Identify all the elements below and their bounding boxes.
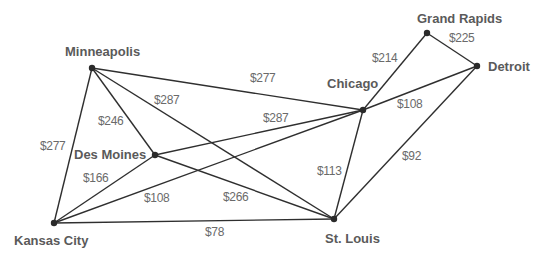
city-label-grand-rapids: Grand Rapids xyxy=(417,11,502,26)
city-node-chicago xyxy=(360,107,366,113)
city-node-detroit xyxy=(474,63,480,69)
cost-label: $113 xyxy=(317,164,342,178)
route-cost-graph: MinneapolisDes MoinesKansas CitySt. Loui… xyxy=(0,0,544,261)
city-node-st-louis xyxy=(331,216,337,222)
cost-label: $108 xyxy=(144,191,170,205)
city-label-detroit: Detroit xyxy=(488,59,531,74)
cost-label: $287 xyxy=(263,111,289,125)
edge-minneapolis-des-moines xyxy=(92,68,155,155)
cost-label: $214 xyxy=(372,51,398,65)
city-node-des-moines xyxy=(152,152,158,158)
cost-label: $277 xyxy=(40,139,66,153)
edge-minneapolis-chicago xyxy=(92,68,363,110)
edges-layer xyxy=(54,33,477,223)
cost-label: $287 xyxy=(154,93,180,107)
edge-des-moines-kansas-city xyxy=(54,155,155,223)
cost-label: $166 xyxy=(83,171,109,185)
city-node-minneapolis xyxy=(89,65,95,71)
edge-des-moines-st-louis xyxy=(155,155,334,219)
cost-label: $277 xyxy=(250,71,276,85)
city-label-chicago: Chicago xyxy=(327,76,378,91)
cost-label: $108 xyxy=(397,97,423,111)
cost-label: $266 xyxy=(223,190,249,204)
city-node-kansas-city xyxy=(51,220,57,226)
cost-labels-layer: $277$287$246$277$287$266$166$108$78$113$… xyxy=(40,31,475,239)
city-label-minneapolis: Minneapolis xyxy=(65,44,140,59)
cost-label: $246 xyxy=(98,114,124,128)
city-label-kansas-city: Kansas City xyxy=(14,233,89,248)
cost-label: $78 xyxy=(205,225,225,239)
cost-label: $225 xyxy=(449,31,475,45)
edge-kansas-city-st-louis xyxy=(54,219,334,223)
city-label-st-louis: St. Louis xyxy=(325,231,380,246)
cost-label: $92 xyxy=(402,149,422,163)
nodes-layer xyxy=(51,30,480,226)
city-node-grand-rapids xyxy=(424,30,430,36)
city-label-des-moines: Des Moines xyxy=(74,147,146,162)
